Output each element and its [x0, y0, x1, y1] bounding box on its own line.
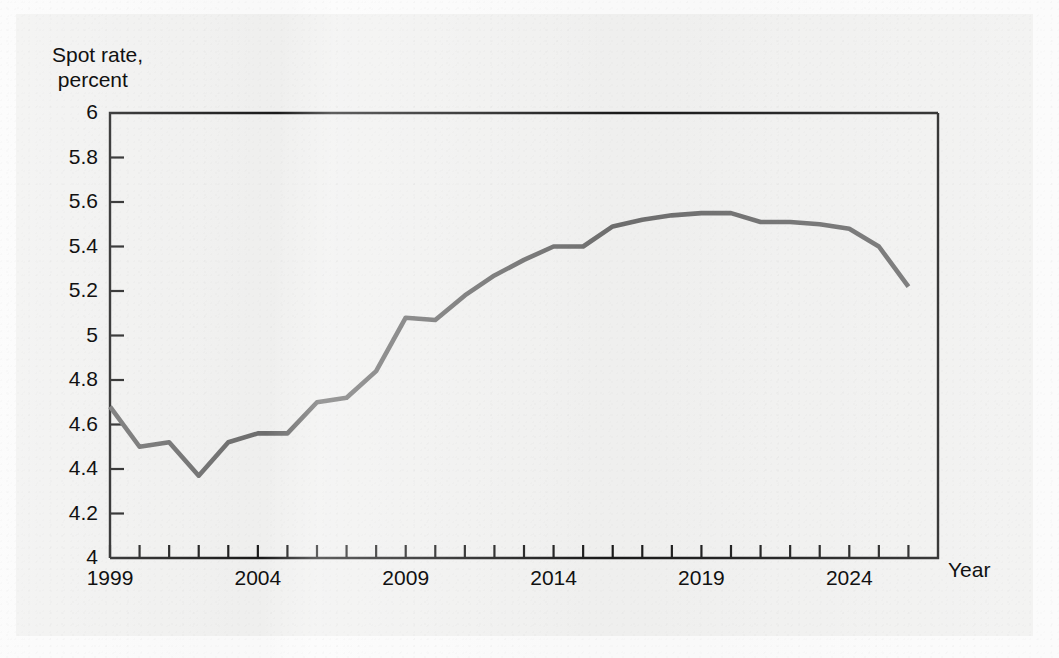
x-tick-label: 1999	[65, 566, 155, 590]
y-axis-ticks	[110, 158, 124, 514]
y-axis-title: Spot rate, percent	[52, 42, 143, 92]
y-tick-label: 5.6	[38, 189, 98, 213]
y-tick-label: 5.8	[38, 145, 98, 169]
x-tick-label: 2019	[656, 566, 746, 590]
x-axis-ticks	[110, 545, 908, 558]
y-tick-label: 5.2	[38, 278, 98, 302]
plot-frame	[110, 113, 938, 558]
y-tick-label: 4.4	[38, 456, 98, 480]
y-tick-label: 4.6	[38, 412, 98, 436]
data-series-spot-rate	[110, 213, 908, 476]
y-tick-label: 4.2	[38, 501, 98, 525]
chart-figure: Spot rate, percent Year 44.24.44.64.855.…	[0, 0, 1059, 658]
y-tick-label: 4.8	[38, 367, 98, 391]
x-tick-label: 2009	[361, 566, 451, 590]
x-axis-title: Year	[948, 557, 990, 582]
y-tick-label: 5	[38, 323, 98, 347]
x-tick-label: 2024	[804, 566, 894, 590]
y-tick-label: 5.4	[38, 234, 98, 258]
y-tick-label: 6	[38, 100, 98, 124]
x-tick-label: 2014	[509, 566, 599, 590]
line-chart-plot	[0, 0, 1059, 658]
x-tick-label: 2004	[213, 566, 303, 590]
